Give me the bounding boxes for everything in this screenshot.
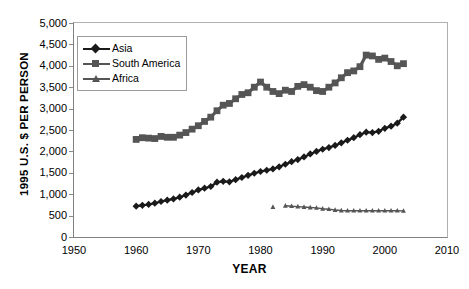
diamond-data-marker (238, 174, 245, 181)
chart-legend: Asia South America Africa (77, 36, 187, 91)
square-data-marker (344, 69, 351, 76)
diamond-data-marker (300, 153, 307, 160)
diamond-data-marker (319, 146, 326, 153)
diamond-data-marker (363, 129, 370, 136)
diamond-data-marker (201, 185, 208, 192)
square-marker-icon (83, 58, 110, 69)
diamond-data-marker (145, 201, 152, 208)
square-data-marker (369, 53, 376, 60)
diamond-data-marker (226, 178, 233, 185)
square-data-marker (400, 60, 407, 67)
x-axis-title: YEAR (0, 262, 469, 276)
square-data-marker (139, 134, 146, 141)
legend-item-africa: Africa (83, 71, 181, 86)
diamond-marker-icon (83, 43, 110, 54)
x-tick-label: 1960 (114, 245, 158, 256)
square-data-marker (294, 83, 301, 90)
chart-figure: 1995 U.S. $ PER PERSON 05001,0001,5002,0… (0, 0, 469, 289)
square-data-marker (164, 134, 171, 141)
square-data-marker (381, 55, 388, 62)
square-data-marker (232, 95, 239, 102)
y-tick-label: 2,000 (21, 146, 67, 157)
square-data-marker (288, 88, 295, 95)
diamond-data-marker (276, 163, 283, 170)
square-data-marker (158, 133, 165, 140)
square-data-marker (257, 79, 264, 86)
square-data-marker (388, 58, 395, 65)
square-data-marker (214, 107, 221, 114)
x-tick-label: 1970 (176, 245, 220, 256)
y-tick-label: 1,500 (21, 167, 67, 178)
square-data-marker (251, 84, 258, 91)
diamond-data-marker (313, 148, 320, 155)
diamond-data-marker (325, 144, 332, 151)
diamond-data-marker (244, 172, 251, 179)
square-data-marker (207, 114, 214, 121)
y-tick-label: 4,000 (21, 60, 67, 71)
diamond-data-marker (220, 178, 227, 185)
square-data-marker (220, 102, 227, 109)
square-data-marker (238, 91, 245, 98)
square-data-marker (375, 56, 382, 63)
square-data-marker (325, 84, 332, 91)
square-data-marker (319, 88, 326, 95)
diamond-data-marker (176, 194, 183, 201)
legend-label: Africa (110, 73, 139, 84)
x-tick-label: 1950 (52, 245, 96, 256)
diamond-data-marker (139, 202, 146, 209)
square-data-marker (301, 81, 308, 88)
diamond-data-marker (251, 170, 258, 177)
square-data-marker (226, 100, 233, 107)
diamond-data-marker (375, 128, 382, 135)
diamond-data-marker (133, 203, 140, 210)
diamond-data-marker (257, 168, 264, 175)
series-line (136, 117, 403, 206)
square-data-marker (338, 74, 345, 81)
square-data-marker (145, 135, 152, 142)
series-asia (133, 114, 408, 210)
diamond-data-marker (263, 167, 270, 174)
diamond-data-marker (307, 150, 314, 157)
y-tick-label: 4,500 (21, 39, 67, 50)
diamond-data-marker (232, 176, 239, 183)
diamond-data-marker (157, 198, 164, 205)
x-axis-title-text: YEAR (232, 262, 267, 276)
square-data-marker (357, 63, 364, 70)
x-tick-label: 2010 (425, 245, 469, 256)
diamond-data-marker (350, 134, 357, 141)
diamond-data-marker (294, 156, 301, 163)
triangle-data-marker (271, 204, 276, 209)
x-tick-label: 1980 (239, 245, 283, 256)
diamond-data-marker (151, 200, 158, 207)
x-tick-label: 1990 (301, 245, 345, 256)
square-data-marker (270, 88, 277, 95)
diamond-data-marker (369, 129, 376, 136)
y-tick-label: 0 (21, 232, 67, 243)
square-data-marker (183, 129, 190, 136)
diamond-data-marker (189, 189, 196, 196)
legend-item-south-america: South America (83, 56, 181, 71)
y-tick-label: 3,500 (21, 82, 67, 93)
square-data-marker (151, 135, 158, 142)
square-data-marker (189, 126, 196, 133)
diamond-data-marker (282, 161, 289, 168)
diamond-data-marker (164, 197, 171, 204)
square-data-marker (195, 122, 202, 129)
square-data-marker (176, 132, 183, 139)
square-data-marker (313, 87, 320, 94)
square-data-marker (363, 52, 370, 59)
diamond-data-marker (381, 125, 388, 132)
square-data-marker (307, 84, 314, 91)
square-data-marker (263, 84, 270, 91)
square-data-marker (133, 136, 140, 143)
y-tick-label: 5,000 (21, 18, 67, 29)
square-data-marker (350, 68, 357, 75)
series-africa (271, 203, 406, 213)
diamond-data-marker (387, 123, 394, 130)
square-data-marker (201, 118, 208, 125)
square-data-marker (170, 134, 177, 141)
triangle-marker-icon (83, 73, 110, 84)
square-data-marker (332, 80, 339, 87)
square-data-marker (394, 62, 401, 69)
diamond-data-marker (269, 165, 276, 172)
